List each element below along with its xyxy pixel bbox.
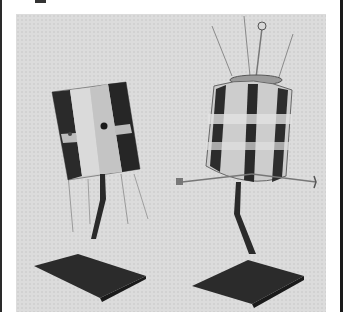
satellite-illustration	[16, 14, 326, 312]
top-corner-mark	[35, 0, 46, 3]
satellite-photo	[16, 14, 326, 312]
left-satellite-model	[34, 82, 148, 302]
right-satellite-model	[176, 16, 316, 308]
frame-left-border	[0, 0, 2, 312]
